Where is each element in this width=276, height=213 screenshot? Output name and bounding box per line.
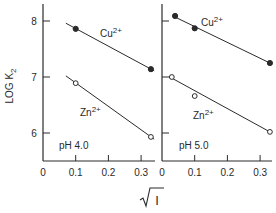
x-tick-label: 0.1 <box>69 167 83 178</box>
x-tick-label: 0 <box>159 167 165 178</box>
panel-label-ph-5: pH 5.0 <box>179 140 209 151</box>
fit-line <box>172 78 270 132</box>
x-tick-label: 0.3 <box>134 167 148 178</box>
sqrt-symbol-icon <box>140 188 164 206</box>
filled-point <box>172 13 177 18</box>
label-zn-right: Zn2+ <box>193 108 214 121</box>
filled-point <box>148 67 153 72</box>
filled-point <box>192 26 197 31</box>
open-point <box>268 129 273 134</box>
x-tick-label: 0.3 <box>253 167 267 178</box>
open-point <box>192 94 197 99</box>
x-tick-label: 0.2 <box>101 167 115 178</box>
x-axis-label: I <box>140 188 164 208</box>
filled-point <box>73 26 78 31</box>
x-tick-label: 0.1 <box>188 167 202 178</box>
y-axis-label: LOG K2 <box>4 68 18 104</box>
y-tick-label: 7 <box>31 72 37 83</box>
panel-ph-5: 00.10.20.3 <box>159 4 272 178</box>
series-zn2 <box>169 75 272 135</box>
chart-svg: 67800.10.20.300.10.20.3 LOG K2 I Cu2+ Zn… <box>0 0 276 213</box>
open-point <box>73 81 78 86</box>
chart-container: 67800.10.20.300.10.20.3 LOG K2 I Cu2+ Zn… <box>0 0 276 213</box>
x-tick-label: 0 <box>40 167 46 178</box>
y-tick-label: 8 <box>31 16 37 27</box>
label-cu-left: Cu2+ <box>100 26 122 39</box>
label-cu-right: Cu2+ <box>201 15 223 28</box>
open-point <box>149 135 154 140</box>
chart-panels: 67800.10.20.300.10.20.3 <box>31 4 272 178</box>
y-tick-label: 6 <box>31 128 37 139</box>
label-zn-left: Zn2+ <box>80 105 101 118</box>
x-tick-label: 0.2 <box>220 167 234 178</box>
x-axis-label-text: I <box>155 193 159 208</box>
panel-label-ph-4: pH 4.0 <box>59 140 89 151</box>
panel-ph-4: 67800.10.20.3 <box>31 4 155 178</box>
y-axis-label-sub: 2 <box>9 68 18 73</box>
filled-point <box>267 60 272 65</box>
open-point <box>169 75 174 80</box>
y-axis-label-main: LOG K <box>4 73 15 104</box>
